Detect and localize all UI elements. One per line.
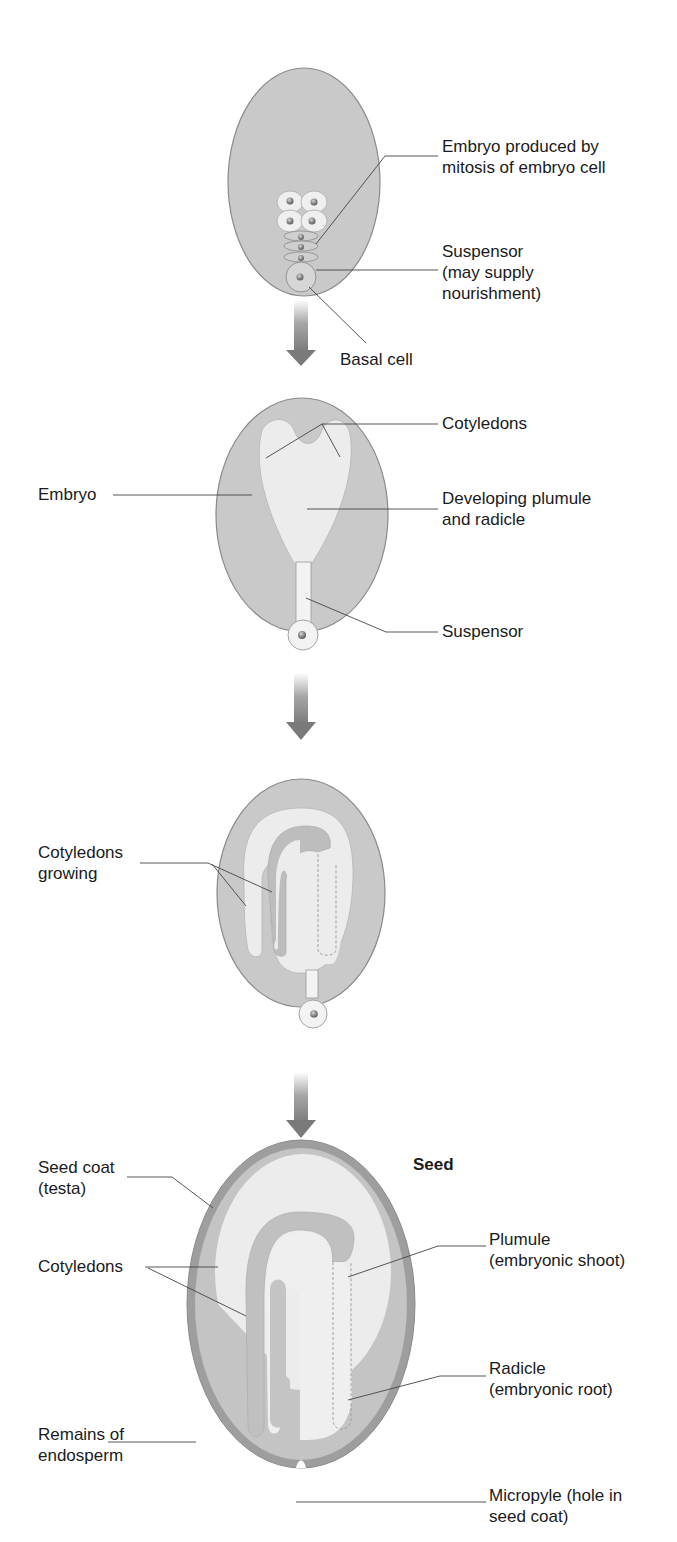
label-line: and radicle bbox=[442, 509, 591, 530]
stage-heart-embryo bbox=[113, 398, 438, 650]
label-line: (may supply bbox=[442, 262, 541, 283]
label-line: seed coat) bbox=[489, 1506, 622, 1527]
label-developing-plumule-radicle: Developing plumule and radicle bbox=[442, 488, 591, 530]
label-line: (testa) bbox=[38, 1178, 115, 1199]
label-line: (embryonic shoot) bbox=[489, 1250, 625, 1271]
label-line: endosperm bbox=[38, 1445, 124, 1466]
seed-title: Seed bbox=[413, 1154, 454, 1175]
suspensor bbox=[296, 562, 311, 624]
label-line: Remains of bbox=[38, 1424, 124, 1445]
label-endosperm: Remains of endosperm bbox=[38, 1424, 124, 1466]
stage-early-embryo bbox=[228, 68, 438, 343]
label-cotyledons-growing: Cotyledons growing bbox=[38, 842, 123, 884]
suspensor-cells bbox=[284, 231, 318, 262]
label-micropyle: Micropyle (hole in seed coat) bbox=[489, 1485, 622, 1527]
label-plumule: Plumule (embryonic shoot) bbox=[489, 1229, 625, 1271]
stage-torpedo-embryo bbox=[140, 779, 385, 1028]
label-line: Developing plumule bbox=[442, 488, 591, 509]
label-embryo: Embryo bbox=[38, 484, 97, 505]
label-line: Embryo bbox=[38, 484, 97, 505]
label-seed-coat: Seed coat (testa) bbox=[38, 1157, 115, 1199]
label-line: Seed coat bbox=[38, 1157, 115, 1178]
label-line: Basal cell bbox=[340, 349, 413, 370]
arrow-down-icon bbox=[286, 673, 316, 740]
label-line: Suspensor bbox=[442, 621, 523, 642]
label-basal-cell: Basal cell bbox=[340, 349, 413, 370]
suspensor bbox=[306, 970, 318, 998]
label-line: Micropyle (hole in bbox=[489, 1485, 622, 1506]
endosperm-finger bbox=[270, 1280, 286, 1428]
label-line: Radicle bbox=[489, 1358, 613, 1379]
label-radicle: Radicle (embryonic root) bbox=[489, 1358, 613, 1400]
arrow-down-icon bbox=[286, 300, 316, 366]
label-line: Cotyledons bbox=[442, 413, 527, 434]
label-line: Suspensor bbox=[442, 241, 541, 262]
arrow-down-icon bbox=[286, 1072, 316, 1138]
embryo-axis bbox=[318, 852, 343, 964]
stage-seed bbox=[108, 1140, 486, 1502]
label-cotyledons-seed: Cotyledons bbox=[38, 1256, 123, 1277]
label-line: Cotyledons bbox=[38, 842, 123, 863]
label-line: growing bbox=[38, 863, 123, 884]
label-line: Embryo produced by bbox=[442, 136, 605, 157]
label-suspensor-nourishment: Suspensor (may supply nourishment) bbox=[442, 241, 541, 304]
label-line: Plumule bbox=[489, 1229, 625, 1250]
label-line: nourishment) bbox=[442, 283, 541, 304]
label-line: Cotyledons bbox=[38, 1256, 123, 1277]
label-suspensor: Suspensor bbox=[442, 621, 523, 642]
label-embryo-mitosis: Embryo produced by mitosis of embryo cel… bbox=[442, 136, 605, 178]
embryo-development-diagram bbox=[0, 0, 677, 1542]
label-line: mitosis of embryo cell bbox=[442, 157, 605, 178]
label-cotyledons: Cotyledons bbox=[442, 413, 527, 434]
label-line: (embryonic root) bbox=[489, 1379, 613, 1400]
